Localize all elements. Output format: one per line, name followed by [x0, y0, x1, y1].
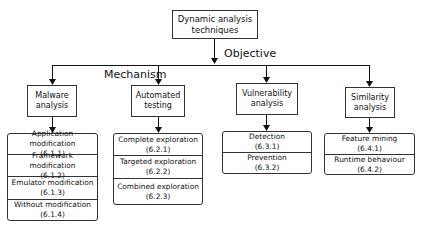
root-line2: techniques	[192, 25, 239, 36]
item-section: (6.4.2)	[357, 165, 382, 175]
category-similarity-analysis: Similarity analysis	[345, 87, 395, 118]
similarity-analysis-items: Feature mining (6.4.1) Runtime behaviour…	[324, 133, 415, 175]
category-vulnerability-analysis: Vulnerability analysis	[236, 83, 298, 115]
automated-testing-items: Complete exploration (6.2.1) Targeted ex…	[113, 133, 203, 205]
category-title: Malware	[35, 91, 69, 101]
list-item: Framework modification (6.1.2)	[8, 155, 97, 177]
list-item: Emulator modification (6.1.3)	[8, 177, 97, 200]
item-name: Combined exploration	[117, 182, 199, 192]
item-name: Application modification	[8, 129, 97, 149]
objective-label: Objective	[224, 47, 276, 60]
item-section: (6.3.2)	[255, 163, 280, 173]
vulnerability-analysis-items: Detection (6.3.1) Prevention (6.3.2)	[222, 131, 312, 174]
item-name: Prevention	[247, 153, 287, 163]
item-name: Complete exploration	[118, 135, 198, 145]
list-item: Combined exploration (6.2.3)	[114, 179, 202, 204]
item-name: Framework modification	[8, 151, 97, 171]
root-node: Dynamic analysis techniques	[172, 10, 258, 39]
category-title: testing	[144, 101, 172, 111]
category-title: analysis	[251, 99, 283, 109]
item-section: (6.4.1)	[357, 144, 382, 154]
category-title: Vulnerability	[242, 89, 292, 99]
item-name: Emulator modification	[12, 178, 94, 188]
category-automated-testing: Automated testing	[131, 85, 185, 117]
item-name: Without modification	[14, 200, 91, 210]
list-item: Detection (6.3.1)	[223, 132, 311, 153]
malware-analysis-items: Application modification (6.1.1) Framewo…	[7, 133, 98, 221]
list-item: Complete exploration (6.2.1)	[114, 134, 202, 156]
list-item: Without modification (6.1.4)	[8, 200, 97, 220]
item-name: Feature mining	[342, 134, 398, 144]
item-name: Detection	[249, 132, 285, 142]
category-title: analysis	[36, 101, 68, 111]
mechanism-label: Mechanism	[104, 68, 167, 81]
item-section: (6.2.1)	[146, 145, 171, 155]
root-line1: Dynamic analysis	[178, 14, 253, 25]
category-title: analysis	[354, 103, 386, 113]
category-title: Similarity	[351, 93, 389, 103]
item-section: (6.2.2)	[146, 167, 171, 177]
list-item: Runtime behaviour (6.4.2)	[325, 155, 414, 175]
item-section: (6.1.4)	[40, 210, 65, 220]
category-title: Automated	[136, 91, 180, 101]
item-name: Targeted exploration	[120, 157, 196, 167]
item-section: (6.3.1)	[255, 142, 280, 152]
list-item: Prevention (6.3.2)	[223, 153, 311, 173]
category-malware-analysis: Malware analysis	[27, 85, 77, 117]
item-name: Runtime behaviour	[334, 155, 404, 165]
item-section: (6.1.3)	[40, 188, 65, 198]
list-item: Targeted exploration (6.2.2)	[114, 156, 202, 179]
item-section: (6.2.3)	[146, 192, 171, 202]
list-item: Feature mining (6.4.1)	[325, 134, 414, 155]
